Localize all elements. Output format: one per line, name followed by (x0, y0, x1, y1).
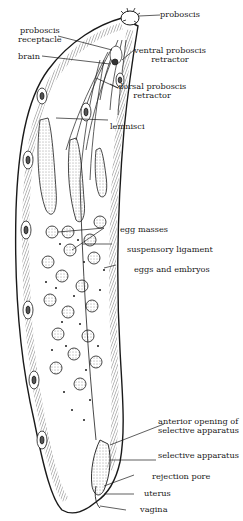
label-egg-masses: egg masses (120, 225, 168, 234)
label-line: selective apparatus (158, 426, 239, 435)
proboscis (121, 8, 140, 25)
label-lemnisci: lemnisci (110, 122, 145, 131)
label-vagina: vagina (140, 505, 168, 514)
label-brain: brain (18, 52, 40, 61)
label-line: retractor (118, 91, 186, 100)
label-proboscis: proboscis (160, 10, 200, 19)
label-rejection-pore: rejection pore (152, 472, 210, 481)
label-anterior-opening: anterior opening of selective apparatus (158, 417, 239, 435)
anatomy-figure (0, 0, 243, 521)
label-line: retractor (134, 55, 206, 64)
label-selective-apparatus: selective apparatus (158, 451, 239, 460)
label-dorsal-proboscis-retractor: dorsal proboscis retractor (118, 82, 186, 100)
label-suspensory-ligament: suspensory ligament (127, 245, 213, 254)
label-line: receptacle (18, 35, 62, 44)
label-eggs-and-embryos: eggs and embryos (134, 265, 210, 274)
label-uterus: uterus (144, 489, 171, 498)
label-ventral-proboscis-retractor: ventral proboscis retractor (134, 46, 206, 64)
label-proboscis-receptacle: proboscis receptacle (18, 26, 62, 44)
